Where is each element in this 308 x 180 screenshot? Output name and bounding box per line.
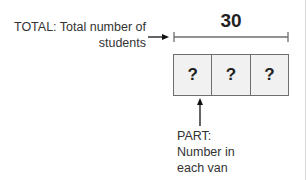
part-label-line1: PART:	[177, 128, 235, 144]
part-boxes: ? ? ?	[173, 54, 289, 96]
total-arrow-icon	[148, 34, 169, 40]
total-bracket	[174, 32, 288, 42]
part-label-line3: each van	[177, 160, 235, 176]
part-label-line2: Number in	[177, 144, 235, 160]
part-label: PART: Number in each van	[177, 128, 235, 176]
part-arrow-icon	[197, 98, 203, 126]
page-edge-divider	[305, 0, 306, 180]
part-box-2: ?	[212, 55, 250, 95]
part-box-1: ?	[174, 55, 212, 95]
part-box-3: ?	[251, 55, 288, 95]
